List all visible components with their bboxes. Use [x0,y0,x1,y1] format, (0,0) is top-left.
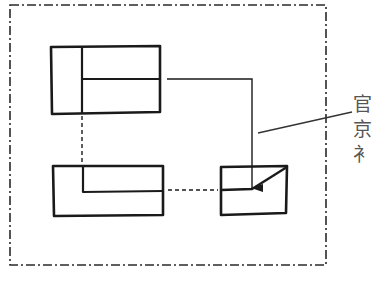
top-view [53,166,163,216]
front-view [51,46,160,114]
annotation-text: 官 京 衤 [353,92,376,167]
auxiliary-view [221,166,287,215]
annotation-line-1: 官 [353,92,376,117]
dash-dot-frame [10,5,326,265]
leader-line [258,112,352,133]
annotation-line-3: 衤 [353,142,376,167]
annotation-line-2: 京 [353,117,376,142]
view-direction-arrow [167,79,252,188]
